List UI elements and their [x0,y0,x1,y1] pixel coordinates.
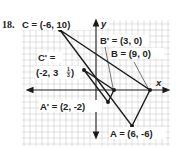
point-B-prime [112,88,116,92]
y-axis-label: y [100,18,107,29]
x-axis-label: x [155,77,162,88]
point-B [148,88,152,92]
label-A: A = (6, -6) [110,128,153,139]
point-C-prime [82,68,86,72]
label-C-prime-close: ) [71,67,74,78]
label-C-prime-line2: (-2, 3 [36,67,58,78]
label-C: C = (-6, 10) [22,19,70,30]
triangle-A-prime-B-prime-C-prime [84,70,114,102]
label-B: B = (9, 0) [111,48,151,59]
label-C-prime-line1: C' = [38,52,56,63]
label-B-prime: B' = (3, 0) [100,35,142,46]
y-axis-up-arrow-icon [94,20,99,26]
point-A-prime [106,100,110,104]
x-axis-left-arrow-icon [27,88,33,93]
problem-number: 18. [2,19,15,30]
y-axis-down-arrow-icon [94,132,99,138]
coordinate-plane-diagram: 18. C = (-6, 10) y x B' = (3, 0) B = (9,… [0,0,176,149]
label-A-prime: A' = (2, -2) [40,101,85,112]
label-C-prime-frac-den: 3 [67,72,70,78]
